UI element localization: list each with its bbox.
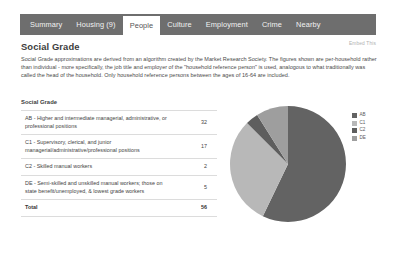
legend-item-c2: C2: [352, 128, 366, 133]
tab-culture[interactable]: Culture: [160, 14, 199, 35]
social-grade-page: Summary Housing (9) People Culture Emplo…: [0, 0, 396, 258]
tab-summary[interactable]: Summary: [23, 14, 69, 35]
tab-people[interactable]: People: [123, 16, 161, 35]
chart-legend: AB C1 C2 DE: [352, 113, 366, 141]
legend-item-c1: C1: [352, 121, 366, 126]
legend-item-de: DE: [352, 136, 366, 141]
legend-label: C2: [359, 128, 365, 133]
pie-slices: [230, 106, 346, 222]
embed-this-link[interactable]: Embed This: [349, 41, 376, 46]
tab-nearby[interactable]: Nearby: [289, 14, 327, 35]
total-label: Total: [21, 200, 179, 217]
row-value: 5: [179, 175, 217, 199]
legend-label: C1: [359, 121, 365, 126]
table-row: AB - Higher and intermediate managerial,…: [21, 111, 217, 135]
pie-chart-area: AB C1 C2 DE: [228, 104, 376, 224]
table-heading: Social Grade: [21, 99, 57, 105]
row-label: AB - Higher and intermediate managerial,…: [21, 111, 179, 135]
table-row: C2 - Skilled manual workers 2: [21, 159, 217, 176]
description-text: Social Grade approximations are derived …: [21, 55, 377, 80]
social-grade-pie-chart: [228, 104, 348, 224]
legend-swatch-icon: [352, 136, 357, 141]
tab-crime[interactable]: Crime: [255, 14, 289, 35]
legend-swatch-icon: [352, 113, 357, 118]
row-value: 32: [179, 111, 217, 135]
tab-employment[interactable]: Employment: [199, 14, 255, 35]
table-row-total: Total 56: [21, 200, 217, 217]
legend-label: DE: [359, 136, 366, 141]
row-label: DE - Semi-skilled and unskilled manual w…: [21, 175, 179, 199]
legend-label: AB: [359, 113, 365, 118]
total-value: 56: [179, 200, 217, 217]
row-value: 2: [179, 159, 217, 176]
social-grade-table: AB - Higher and intermediate managerial,…: [21, 110, 217, 217]
tab-housing[interactable]: Housing (9): [69, 14, 122, 35]
tab-bar: Summary Housing (9) People Culture Emplo…: [20, 14, 376, 35]
table-row: C1 - Supervisory, clerical, and junior m…: [21, 135, 217, 159]
legend-swatch-icon: [352, 121, 357, 126]
row-label: C1 - Supervisory, clerical, and junior m…: [21, 135, 179, 159]
legend-item-ab: AB: [352, 113, 366, 118]
row-value: 17: [179, 135, 217, 159]
row-label: C2 - Skilled manual workers: [21, 159, 179, 176]
page-title: Social Grade: [21, 41, 80, 52]
legend-swatch-icon: [352, 128, 357, 133]
table-row: DE - Semi-skilled and unskilled manual w…: [21, 175, 217, 199]
